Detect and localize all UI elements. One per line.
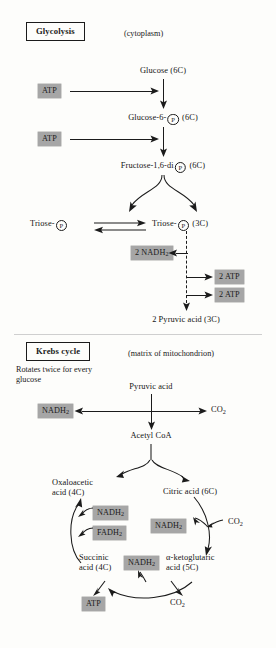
phosphate-circle-icon: P — [175, 162, 187, 174]
arrow-atp-out-1-shaft — [186, 277, 206, 278]
chip-atp-input-2: ATP — [38, 132, 61, 146]
metabolite-pyruvic-acid-krebs: Pyruvic acid — [129, 382, 172, 392]
chip-nadh2-glycolysis: 2 NADH2 — [131, 246, 173, 260]
phosphate-circle-icon: P — [56, 220, 68, 232]
label-co2-ketoglutarate: CO2 — [170, 598, 185, 608]
label-co2-pyruvate-oxidation: CO2 — [211, 405, 226, 415]
arrow-nadh2-left-branch — [78, 505, 94, 517]
chip-nadh2-isocitrate-dehydrogenase: NADH2 — [151, 519, 186, 533]
metabolite-glucose: Glucose (6C) — [140, 66, 186, 76]
arrow-co2-entry-shaft — [151, 411, 200, 412]
arrow-g6p-to-fructose-head — [159, 148, 169, 158]
chip-atp-output-2: 2 ATP — [215, 288, 244, 302]
arrow-atp-input-1-shaft — [70, 91, 154, 92]
krebs-note: Rotates twice for every glucose — [16, 365, 102, 385]
arrow-pyruvate-to-acetyl-head — [147, 421, 157, 431]
arrow-co2-bottom-branch — [168, 580, 184, 596]
equilibrium-arrows-triose — [92, 219, 148, 237]
chip-nadh2-malate-dehydrogenase: NADH2 — [93, 506, 128, 520]
metabolite-pyruvic-acid-glycolysis: 2 Pyruvic acid (3C) — [152, 315, 220, 325]
arrow-atp-out-2-shaft — [186, 295, 206, 296]
arrow-atp-out-1-head — [204, 273, 214, 282]
arrow-co2-entry-head — [198, 407, 208, 416]
glycolysis-title-box: Glycolysis — [26, 22, 85, 41]
arrow-nadh2-head — [168, 249, 178, 258]
arrow-fadh2-left-branch — [78, 525, 94, 537]
arrow-atp-input-2-shaft — [70, 139, 154, 140]
metabolite-glucose-6-phosphate: Glucose-6-P (6C) — [128, 113, 198, 125]
fork-fructose-to-trioses — [100, 175, 230, 217]
krebs-title: Krebs cycle — [36, 346, 80, 356]
chip-atp-substrate-phosphorylation: ATP — [82, 597, 105, 611]
arrow-atp-input-2-head — [150, 135, 160, 144]
metabolite-acetyl-coa: Acetyl CoA — [130, 431, 171, 441]
phosphate-circle-icon: P — [167, 114, 179, 126]
dashed-pathway-line — [186, 231, 187, 308]
metabolite-citric-acid: Citric acid (6C) — [163, 487, 217, 497]
metabolite-triose-phosphate-left: Triose-P — [30, 219, 68, 231]
label-co2-isocitrate: CO2 — [228, 517, 243, 527]
krebs-location: (matrix of mitochondrion) — [128, 349, 214, 358]
arrow-co2-right-branch — [206, 518, 224, 530]
chip-atp-input-1: ATP — [38, 84, 61, 98]
arrow-to-pyruvate-head — [182, 302, 192, 312]
arrow-nadh2-entry-shaft — [82, 411, 152, 412]
chip-nadh2-pyruvate-oxidation: NADH2 — [38, 404, 73, 418]
fork-acetyl-to-cycle — [80, 444, 225, 482]
arrow-atp-input-1-head — [150, 87, 160, 96]
krebs-title-box: Krebs cycle — [26, 342, 90, 361]
phosphate-circle-icon: P — [178, 220, 190, 232]
chip-atp-output-1: 2 ATP — [215, 270, 244, 284]
pathway-diagram: Glycolysis (cytoplasm) Glucose (6C) ATP … — [0, 0, 276, 648]
metabolite-fructose-1-6-bisphosphate: Fructose-1,6-diP (6C) — [121, 161, 205, 173]
arrow-glucose-to-g6p-head — [159, 100, 169, 110]
chip-fadh2-succinate-dehydrogenase: FADH2 — [93, 526, 126, 540]
section-divider — [14, 334, 262, 335]
glycolysis-location: (cytoplasm) — [124, 29, 163, 38]
arrow-atp-out-2-head — [204, 291, 214, 300]
metabolite-triose-phosphate-right: Triose-P (3C) — [152, 219, 208, 231]
arrow-atp-bottom-branch — [92, 580, 108, 596]
arrow-nadh2-entry-head — [74, 407, 84, 416]
chip-nadh2-ketoglutarate-dehydrogenase: NADH2 — [124, 556, 159, 570]
glycolysis-title: Glycolysis — [36, 26, 75, 36]
arrow-nadh2-bottom-branch — [137, 570, 151, 584]
